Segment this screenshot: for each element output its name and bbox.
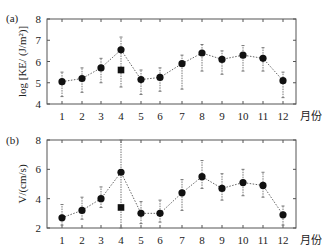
data-point — [97, 195, 104, 202]
square-point — [118, 67, 125, 74]
x-tick-label: 2 — [79, 110, 85, 122]
data-point — [218, 56, 225, 63]
data-point — [198, 49, 205, 56]
y-tick-label: 6 — [36, 56, 42, 68]
x-tick-label: 6 — [157, 110, 163, 122]
data-point — [178, 60, 185, 67]
x-tick-label: 12 — [278, 234, 289, 246]
data-point — [78, 207, 85, 214]
x-tick-label: 7 — [179, 234, 185, 246]
chart-panel-b: 2468123456789101112月份(b)V/(cm/s) — [6, 134, 322, 246]
x-tick-label: 5 — [138, 110, 144, 122]
x-axis-label: 月份 — [300, 110, 322, 122]
data-point — [259, 55, 266, 62]
panel-label: (b) — [6, 134, 19, 147]
x-tick-label: 3 — [98, 234, 104, 246]
x-tick-label: 4 — [118, 110, 124, 122]
data-point — [259, 182, 266, 189]
chart-panel-a: 45678123456789101112月份(a)log [KE/ (J/m²)… — [6, 12, 322, 122]
x-tick-label: 8 — [199, 234, 205, 246]
y-tick-label: 8 — [36, 13, 42, 25]
y-tick-label: 8 — [36, 134, 42, 146]
plot-frame — [47, 140, 296, 228]
x-tick-label: 10 — [238, 110, 250, 122]
data-point — [279, 77, 286, 84]
square-point — [118, 204, 125, 211]
data-point — [156, 210, 163, 217]
data-point — [58, 214, 65, 221]
series-line — [62, 172, 283, 217]
data-point — [137, 76, 144, 83]
x-tick-label: 2 — [79, 234, 85, 246]
data-point — [117, 169, 124, 176]
data-point — [78, 75, 85, 82]
panel-label: (a) — [6, 12, 19, 25]
x-tick-label: 9 — [219, 234, 225, 246]
chart-canvas: 45678123456789101112月份(a)log [KE/ (J/m²)… — [0, 0, 332, 251]
data-point — [97, 64, 104, 71]
x-tick-label: 3 — [98, 110, 104, 122]
y-tick-label: 6 — [36, 163, 42, 175]
x-axis-label: 月份 — [300, 234, 322, 246]
data-point — [58, 78, 65, 85]
y-tick-label: 7 — [36, 34, 42, 46]
x-tick-label: 11 — [258, 110, 269, 122]
y-axis-label: V/(cm/s) — [16, 164, 29, 203]
data-point — [156, 74, 163, 81]
x-tick-label: 1 — [59, 234, 65, 246]
data-point — [137, 210, 144, 217]
x-tick-label: 11 — [258, 234, 269, 246]
plot-frame — [47, 19, 296, 104]
x-tick-label: 5 — [138, 234, 144, 246]
data-point — [117, 46, 124, 53]
data-point — [198, 173, 205, 180]
y-tick-label: 2 — [36, 222, 42, 234]
series-line — [62, 50, 283, 82]
y-axis-label: log [KE/ (J/m²)] — [16, 26, 29, 97]
y-tick-label: 4 — [36, 98, 42, 110]
data-point — [218, 185, 225, 192]
y-tick-label: 4 — [36, 193, 42, 205]
data-point — [178, 189, 185, 196]
data-point — [279, 211, 286, 218]
x-tick-label: 1 — [59, 110, 65, 122]
x-tick-label: 10 — [238, 234, 250, 246]
x-tick-label: 9 — [219, 110, 225, 122]
x-tick-label: 7 — [179, 110, 185, 122]
x-tick-label: 12 — [278, 110, 289, 122]
x-tick-label: 8 — [199, 110, 205, 122]
data-point — [239, 52, 246, 59]
x-tick-label: 4 — [118, 234, 124, 246]
data-point — [239, 179, 246, 186]
y-tick-label: 5 — [36, 77, 42, 89]
x-tick-label: 6 — [157, 234, 163, 246]
